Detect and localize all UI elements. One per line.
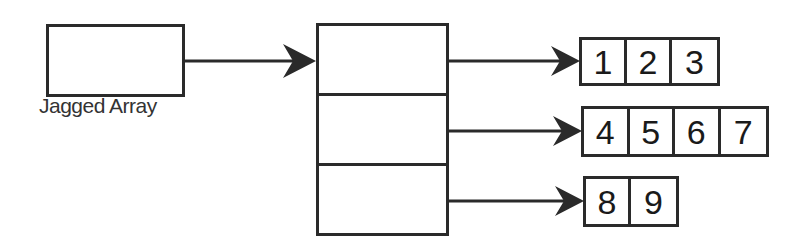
arrow-slot-0-to-row-0 (449, 46, 580, 76)
jagged-array-reference-box (46, 24, 185, 97)
array-cell: 2 (627, 40, 672, 83)
array-cell: 9 (631, 179, 676, 224)
array-cell: 5 (630, 109, 676, 154)
array-cell: 4 (584, 109, 630, 154)
pointer-slot-1 (319, 96, 446, 166)
pointer-slot-0 (319, 26, 446, 96)
array-cell: 7 (721, 109, 766, 154)
sub-array-row-2: 8 9 (583, 176, 679, 227)
arrow-slot-2-to-row-2 (449, 186, 584, 216)
arrow-reference-to-pointer-array (185, 44, 316, 78)
sub-array-row-0: 1 2 3 (579, 37, 720, 86)
array-cell: 8 (586, 179, 631, 224)
pointer-slot-2 (319, 166, 446, 233)
array-cell: 3 (672, 40, 717, 83)
array-cell: 6 (675, 109, 721, 154)
sub-array-row-1: 4 5 6 7 (581, 106, 769, 157)
pointer-array (316, 23, 449, 236)
arrow-slot-1-to-row-1 (449, 116, 582, 146)
array-cell: 1 (582, 40, 627, 83)
jagged-array-label: Jagged Array (39, 94, 157, 118)
